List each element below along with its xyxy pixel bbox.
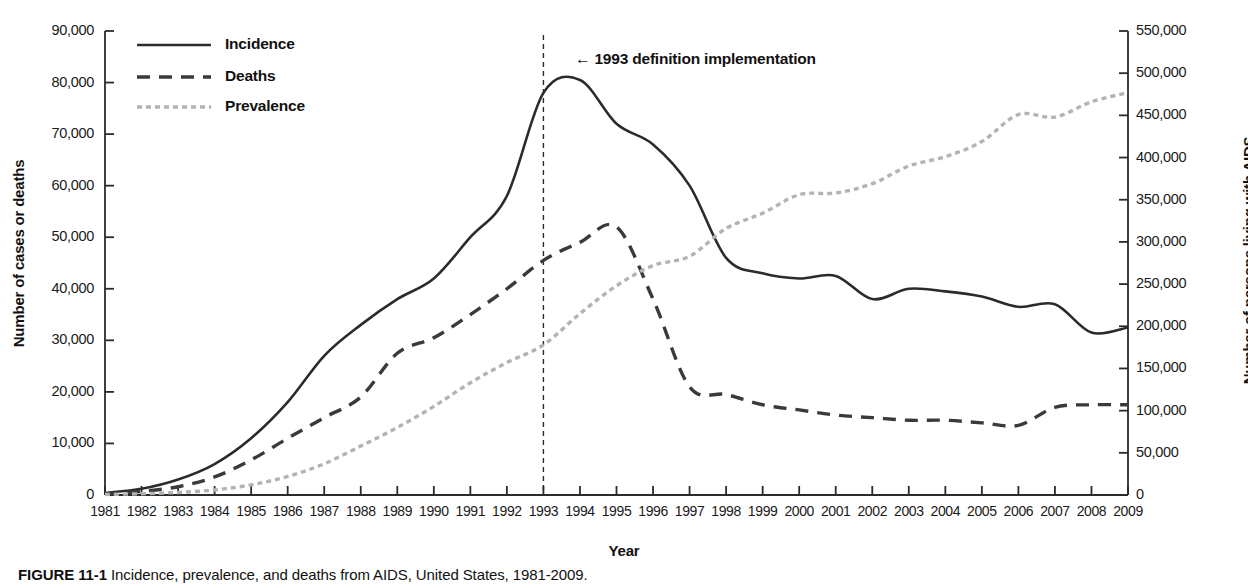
legend-label-incidence: Incidence (225, 35, 295, 53)
x-axis-tick-label: 2009 (1104, 503, 1152, 519)
y-axis-right-tick-label: 500,000 (1136, 64, 1186, 80)
y-axis-right-tick-label: 150,000 (1136, 359, 1186, 375)
y-axis-right-tick-label: 550,000 (1136, 22, 1186, 38)
y-axis-right-tick-label: 350,000 (1136, 191, 1186, 207)
y-axis-left-tick-label: 80,000 (10, 74, 94, 90)
y-axis-right-tick-label: 50,000 (1136, 444, 1179, 460)
legend-label-deaths: Deaths (225, 67, 275, 85)
y-axis-left-tick-label: 50,000 (10, 228, 94, 244)
y-axis-left-tick-label: 90,000 (10, 22, 94, 38)
series-line-prevalence (105, 93, 1128, 495)
y-axis-right-tick-label: 0 (1136, 486, 1144, 502)
chart-plot-area (0, 0, 1248, 588)
y-axis-left-tick-label: 10,000 (10, 434, 94, 450)
y-axis-right-tick-label: 400,000 (1136, 149, 1186, 165)
legend-line-swatches (137, 45, 211, 107)
y-axis-right-tick-label: 450,000 (1136, 106, 1186, 122)
y-axis-left-tick-label: 30,000 (10, 331, 94, 347)
y-axis-right-tick-label: 100,000 (1136, 402, 1186, 418)
y-axis-left-tick-label: 20,000 (10, 383, 94, 399)
y-axis-left-tick-label: 60,000 (10, 177, 94, 193)
y-axis-left-tick-label: 40,000 (10, 280, 94, 296)
data-series-lines (105, 77, 1128, 495)
y-axis-right-tick-label: 300,000 (1136, 233, 1186, 249)
legend-label-prevalence: Prevalence (225, 97, 305, 115)
aids-surveillance-figure: Number of cases or deaths Number of pers… (0, 0, 1248, 588)
y-axis-right-tick-label: 250,000 (1136, 275, 1186, 291)
series-line-deaths (105, 224, 1128, 494)
y-axis-left-tick-label: 70,000 (10, 125, 94, 141)
y-axis-right-tick-label: 200,000 (1136, 317, 1186, 333)
y-axis-left-tick-label: 0 (10, 486, 94, 502)
